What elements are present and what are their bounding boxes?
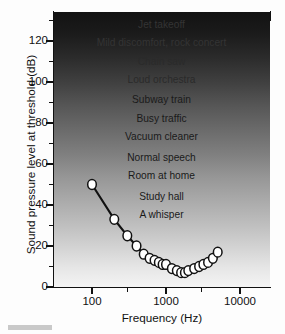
x-tick-major	[239, 287, 240, 294]
data-point-marker	[132, 241, 141, 251]
x-axis-title: Frequency (Hz)	[53, 311, 271, 324]
plot-right-edge	[270, 11, 271, 21]
x-tick-major	[91, 287, 92, 294]
y-tick-minor	[49, 102, 54, 103]
x-tick-major	[165, 287, 166, 294]
y-tick-minor	[49, 61, 54, 62]
x-tick-minor	[201, 287, 202, 292]
data-point-marker	[213, 247, 222, 257]
plot-area: Jet takeoffMild discomfort, rock concert…	[53, 12, 270, 287]
y-tick-minor	[49, 184, 54, 185]
x-tick-minor	[127, 287, 128, 292]
x-tick-label: 100	[62, 295, 122, 307]
x-axis-line	[53, 287, 271, 288]
threshold-curve	[53, 12, 270, 287]
data-point-marker	[88, 180, 97, 190]
data-point-marker	[123, 231, 132, 241]
y-tick-minor	[49, 20, 54, 21]
x-tick-label: 1000	[136, 295, 196, 307]
curve-markers	[88, 180, 222, 278]
data-point-marker	[110, 214, 119, 224]
x-tick-label: 10000	[210, 295, 270, 307]
y-axis-title: Sound pressure level at threshold (dB)	[24, 21, 37, 289]
y-tick-minor	[49, 143, 54, 144]
y-tick-minor	[49, 225, 54, 226]
figure-threshold-of-hearing: Jet takeoffMild discomfort, rock concert…	[0, 0, 285, 334]
y-tick-minor	[49, 266, 54, 267]
scan-artifact-strip	[8, 325, 52, 330]
